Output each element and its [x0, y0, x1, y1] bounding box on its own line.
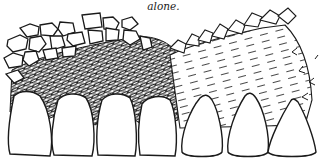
dental-illustration: [0, 0, 327, 162]
tooth: [97, 94, 137, 156]
tooth: [52, 94, 94, 156]
tooth: [139, 97, 177, 156]
right-teeth: [182, 93, 316, 156]
